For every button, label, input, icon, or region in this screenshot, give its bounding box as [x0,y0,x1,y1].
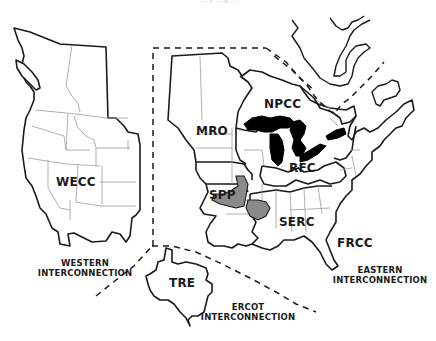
eastern-label-line1: EASTERN [330,265,430,275]
ercot-label-line2: INTERCONNECTION [198,312,298,322]
eastern-label-line2: INTERCONNECTION [330,275,430,285]
region-label-spp: SPP [209,188,236,202]
region-label-mro: MRO [196,124,228,138]
region-label-wecc: WECC [56,175,96,189]
region-label-npcc: NPCC [264,97,301,111]
eastern-interconnection-label: EASTERN INTERCONNECTION [330,265,430,285]
wecc-region [14,28,140,246]
western-label-line1: WESTERN [30,258,140,268]
region-label-tre: TRE [169,276,195,290]
western-label-line2: INTERCONNECTION [30,268,140,278]
region-label-frcc: FRCC [337,236,373,250]
region-label-rfc: RFC [289,161,316,175]
region-label-serc: SERC [279,215,315,229]
ercot-interconnection-label: ERCOT INTERCONNECTION [198,302,298,322]
nerc-region-map [0,0,436,341]
ercot-label-line1: ERCOT [198,302,298,312]
western-interconnection-label: WESTERN INTERCONNECTION [30,258,140,278]
